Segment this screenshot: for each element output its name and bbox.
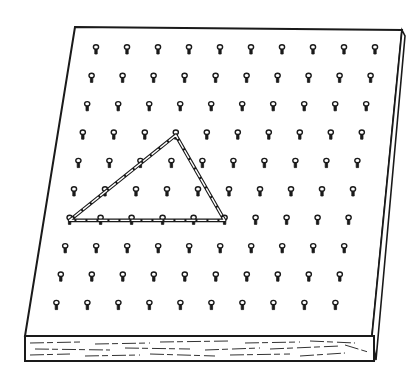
geoboard-illustration: Geoboard with rubber band triangle — [0, 0, 420, 387]
board-front-edge — [25, 336, 374, 361]
geoboard-drawing — [0, 0, 420, 387]
